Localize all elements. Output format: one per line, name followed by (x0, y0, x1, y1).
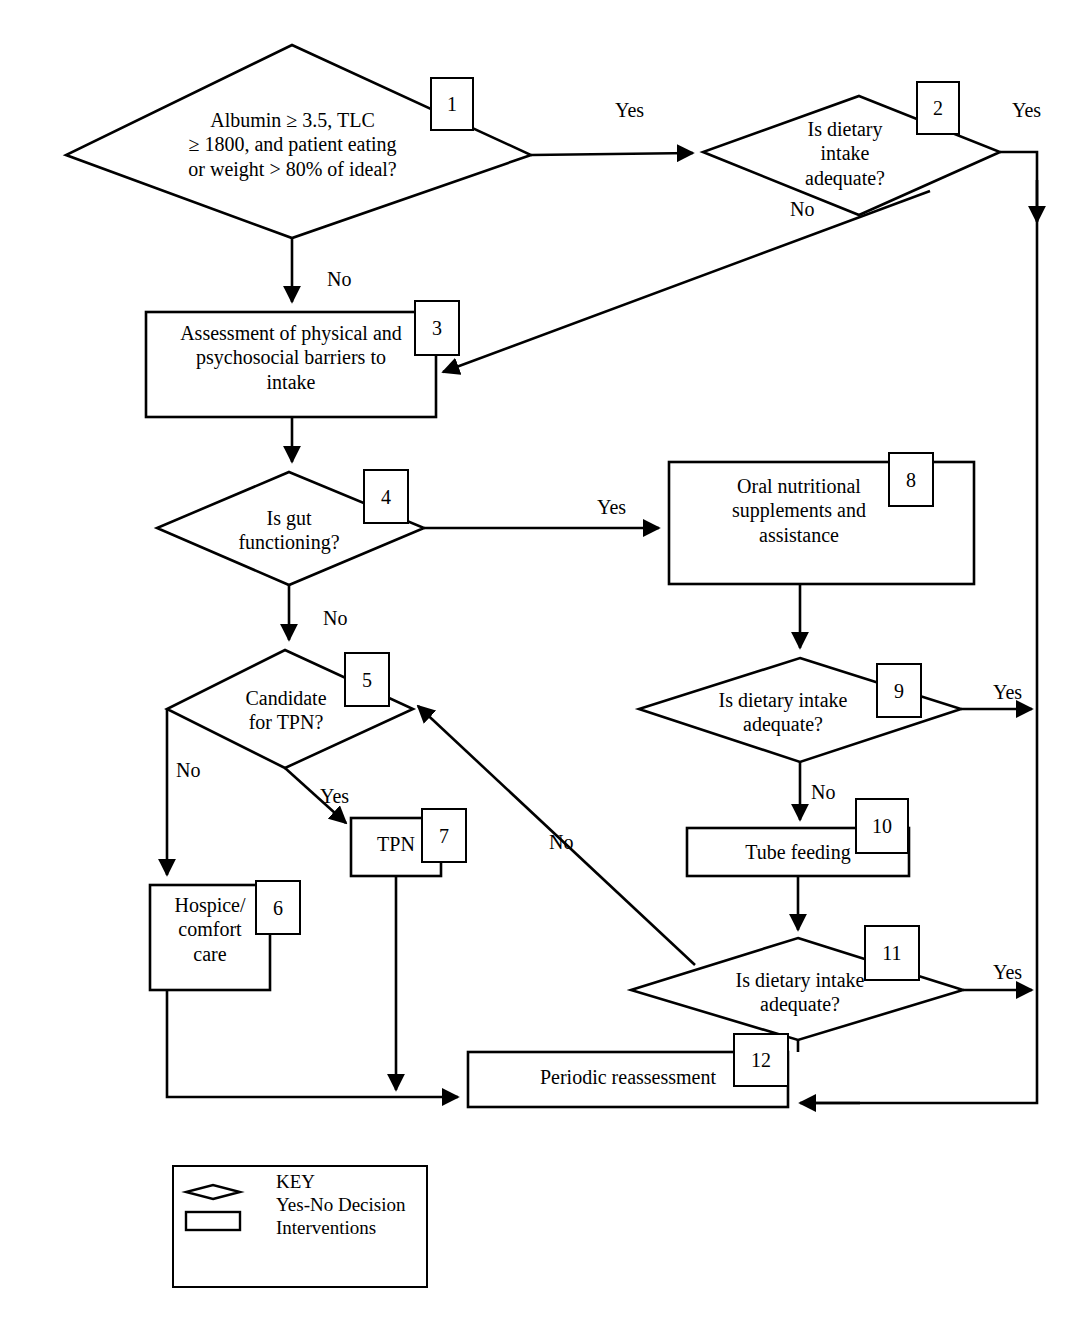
node-5-number: 5 (344, 652, 390, 707)
node-8-number: 8 (888, 452, 934, 507)
edge-label-4-no: No (323, 608, 347, 628)
node-10-number: 10 (855, 798, 909, 854)
edge-1-to-2 (531, 153, 693, 155)
node-6-shape (150, 885, 270, 990)
node-1-shape (66, 45, 531, 238)
edge-label-2-no: No (790, 199, 814, 219)
key-title: KEY (276, 1171, 315, 1193)
edge-label-9-yes: Yes (993, 682, 1022, 702)
key-intervention-label: Interventions (276, 1217, 376, 1239)
node-3-number: 3 (414, 300, 460, 356)
node-11-number: 11 (864, 925, 920, 981)
node-12-number: 12 (733, 1033, 789, 1087)
edge-label-9-no: No (811, 782, 835, 802)
key-intervention-icon (186, 1212, 240, 1230)
edge-label-11-no: No (549, 832, 573, 852)
edge-2-to-3 (443, 191, 930, 372)
key-decision-label: Yes-No Decision (276, 1194, 405, 1216)
node-4-number: 4 (363, 469, 409, 524)
key-decision-icon (186, 1185, 240, 1199)
flowchart-canvas: Albumin ≥ 3.5, TLC ≥ 1800, and patient e… (0, 0, 1091, 1324)
node-6-number: 6 (255, 880, 301, 935)
flowchart-connectors (0, 0, 1091, 1324)
edge-label-1-no: No (327, 269, 351, 289)
edge-label-4-yes: Yes (597, 497, 626, 517)
edge-label-11-yes: Yes (993, 962, 1022, 982)
node-3-shape (146, 312, 436, 417)
node-1-number: 1 (430, 77, 474, 131)
edge-label-2-yes: Yes (1012, 100, 1041, 120)
node-7-number: 7 (421, 808, 467, 863)
edge-label-5-no: No (176, 760, 200, 780)
node-2-number: 2 (916, 81, 960, 135)
edge-label-1-to-2-yes: Yes (615, 100, 644, 120)
node-9-number: 9 (876, 663, 922, 718)
edge-label-5-yes: Yes (320, 786, 349, 806)
edge-6-bottom-rail (167, 990, 458, 1097)
